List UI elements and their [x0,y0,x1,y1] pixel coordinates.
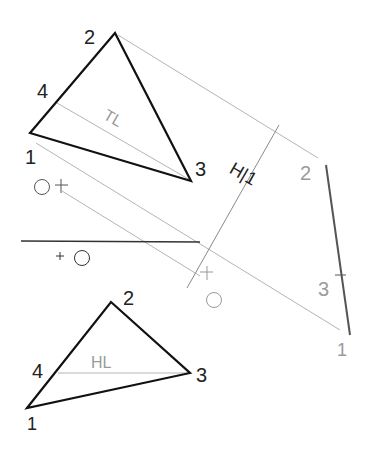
front-label-3: 3 [195,158,206,180]
top-label-3: 3 [196,364,207,386]
projection-line-1 [36,143,340,330]
aux-label-1: 1 [337,340,347,360]
origin-circle-aux [207,293,222,308]
top-label-4: 4 [32,360,43,382]
projection-line-origin [62,191,200,276]
projection-lines [36,35,340,373]
tl-label: TL [101,106,126,130]
folding-line-label: H|1 [226,158,260,189]
aux-label-2: 2 [300,162,311,184]
hl-label: HL [91,354,112,371]
front-label-4: 4 [37,80,48,102]
top-label-2: 2 [123,287,134,309]
folding-line-hf [21,241,200,242]
descriptive-geometry-drawing: 2 4 1 3 TL H|1 2 3 1 2 4 3 1 HL [0,0,372,449]
edge-view-line [326,165,350,335]
front-label-1: 1 [25,146,36,168]
origin-circle-front [35,180,50,195]
origin-circle-top [75,251,90,266]
aux-label-3: 3 [318,278,329,300]
front-label-2: 2 [84,26,95,48]
folding-line-h1 [187,125,279,288]
top-label-1: 1 [27,414,37,434]
